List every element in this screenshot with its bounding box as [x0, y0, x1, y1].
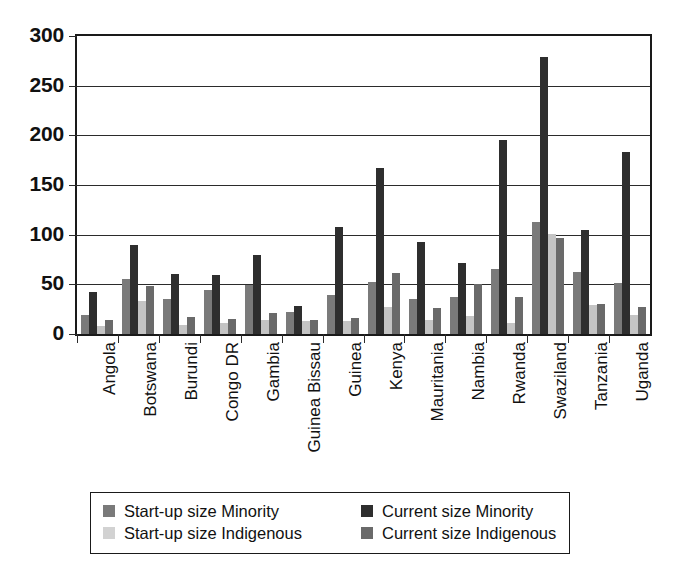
y-axis-tick-mark [69, 185, 77, 186]
bars-layer [77, 36, 650, 334]
y-axis-tick-label: 50 [8, 272, 64, 293]
bar [515, 297, 523, 334]
legend-item-current-indigenous: Current size Indigenous [361, 522, 556, 544]
bar-group [568, 36, 609, 334]
bar [122, 279, 130, 334]
bar [474, 284, 482, 334]
bar [556, 238, 564, 334]
y-axis-tick-mark [69, 135, 77, 136]
bar [269, 313, 277, 334]
x-axis-tick-label: Mauritania [429, 342, 446, 421]
y-axis-tick-label: 250 [8, 74, 64, 95]
bar [212, 275, 220, 334]
bar [409, 299, 417, 334]
y-axis-tick-label: 300 [8, 24, 64, 45]
legend-swatch-icon [103, 527, 115, 539]
bar [630, 315, 638, 334]
chart-legend: Start-up size Minority Current size Mino… [90, 492, 570, 554]
bar [204, 290, 212, 334]
legend-row: Start-up size Minority Current size Mino… [103, 500, 557, 522]
legend-label: Start-up size Indigenous [124, 522, 302, 544]
bar [425, 320, 433, 334]
x-axis-tick-label: Rwanda [511, 342, 528, 404]
bar [138, 301, 146, 334]
x-axis-tick-label: Kenya [388, 342, 405, 390]
bar-group [241, 36, 282, 334]
bar [589, 305, 597, 334]
bar [253, 255, 261, 334]
y-axis-tick-label: 100 [8, 223, 64, 244]
bar [105, 320, 113, 334]
bar [638, 307, 646, 334]
bar [458, 263, 466, 334]
bar-group [323, 36, 364, 334]
x-axis-tick-label: Burundi [183, 342, 200, 401]
bar-group [159, 36, 200, 334]
legend-label: Start-up size Minority [124, 500, 279, 522]
bar [491, 269, 499, 334]
x-axis-tick-label: Guinea [347, 342, 364, 397]
x-axis-tick-label: Congo DR [224, 342, 241, 421]
bar [343, 321, 351, 334]
bar-group [609, 36, 650, 334]
bar [171, 274, 179, 334]
bar [97, 326, 105, 334]
bar [376, 168, 384, 334]
bar [417, 242, 425, 334]
y-axis: 050100150200250300 [8, 0, 64, 340]
bar [573, 272, 581, 334]
y-axis-tick-label: 0 [8, 322, 64, 343]
legend-label: Current size Minority [382, 500, 533, 522]
x-axis-tick-label: Nambia [470, 342, 487, 401]
bar-group [527, 36, 568, 334]
bar [499, 140, 507, 334]
legend-item-startup-minority: Start-up size Minority [103, 500, 361, 522]
y-axis-tick-mark [69, 284, 77, 285]
bar-group [282, 36, 323, 334]
y-axis-tick-label: 150 [8, 173, 64, 194]
legend-swatch-icon [361, 505, 373, 517]
bar [466, 316, 474, 334]
x-axis-tick-label: Guinea Bissau [306, 342, 323, 453]
x-axis-tick-label: Angola [101, 342, 118, 395]
bar [245, 285, 253, 334]
bar [81, 315, 89, 334]
y-axis-tick-mark [69, 36, 77, 37]
bar [614, 283, 622, 334]
bar [597, 304, 605, 334]
legend-label: Current size Indigenous [382, 522, 556, 544]
bar [286, 312, 294, 334]
bar [392, 273, 400, 334]
x-axis-tick-label: Tanzania [593, 342, 610, 410]
bar-group [200, 36, 241, 334]
bar [335, 227, 343, 334]
bar [622, 152, 630, 334]
bar-chart: 050100150200250300 AngolaBotswanaBurundi… [0, 0, 673, 581]
bar [302, 321, 310, 334]
bar [187, 317, 195, 334]
y-axis-tick-label: 200 [8, 123, 64, 144]
bar [540, 57, 548, 334]
x-axis-tick-label: Swaziland [552, 342, 569, 420]
bar [89, 292, 97, 334]
y-axis-tick-mark [69, 86, 77, 87]
bar [261, 320, 269, 334]
bar [351, 318, 359, 334]
x-axis-tick-label: Gambia [265, 342, 282, 402]
bar [294, 306, 302, 334]
bar [548, 234, 556, 334]
bar [368, 282, 376, 334]
legend-swatch-icon [103, 505, 115, 517]
bar [384, 307, 392, 334]
legend-item-current-minority: Current size Minority [361, 500, 533, 522]
bar-group [404, 36, 445, 334]
bar-group [486, 36, 527, 334]
bar [532, 222, 540, 334]
legend-row: Start-up size Indigenous Current size In… [103, 522, 557, 544]
legend-swatch-icon [361, 527, 373, 539]
bar-group [118, 36, 159, 334]
bar [507, 323, 515, 334]
x-axis: AngolaBotswanaBurundiCongo DRGambiaGuine… [75, 338, 648, 488]
bar [433, 308, 441, 334]
bar [220, 323, 228, 334]
